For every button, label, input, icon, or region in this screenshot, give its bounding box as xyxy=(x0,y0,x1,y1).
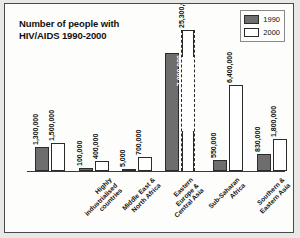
bar-solid-top-segment xyxy=(182,31,194,57)
bar-2000-highly-industrialised xyxy=(51,143,65,171)
plot-area: 1,300,000 1,500,000 100,000 400,000 5,00… xyxy=(17,22,285,172)
bar-2000-latin-america-caribbean xyxy=(273,139,287,171)
bar-value-1990-latin-america-caribbean: 830,000 xyxy=(254,127,261,152)
chart-frame: Number of people with HIV/AIDS 1990-2000… xyxy=(4,3,294,233)
category-label-highly-industrialised: Highly industrialised countries xyxy=(78,176,124,222)
bar-group-middle-east-north-africa: 100,000 400,000 xyxy=(79,161,109,171)
bar-2000-middle-east-north-africa xyxy=(95,161,109,171)
bar-group-highly-industrialised: 1,300,000 1,500,000 xyxy=(35,143,65,171)
bar-wrap-1990: 100,000 xyxy=(79,168,93,171)
bar-wrap-2000: 6,400,000 xyxy=(229,85,243,171)
bar-value-2000-latin-america-caribbean: 1,800,000 xyxy=(270,106,277,137)
bar-value-2000-sub-saharan-africa: 25,300,000 xyxy=(178,3,185,28)
bar-1990-eastern-europe-central-asia xyxy=(122,169,136,171)
bar-2000-eastern-europe-central-asia xyxy=(138,157,152,171)
bar-1990-highly-industrialised xyxy=(35,147,49,171)
category-label-eastern-europe-central-asia: Eastern Europe & Central Asia xyxy=(162,176,205,219)
bar-value-1990-middle-east-north-africa: 100,000 xyxy=(76,141,83,166)
bar-value-2000-eastern-europe-central-asia: 700,000 xyxy=(135,130,142,155)
bar-wrap-2000: 400,000 xyxy=(95,161,109,171)
bar-value-2000-middle-east-north-africa: 400,000 xyxy=(92,134,99,159)
bar-wrap-1990: 1,300,000 xyxy=(35,147,49,171)
category-label-middle-east-north-africa: Middle East & North Africa xyxy=(121,176,162,217)
bar-wrap-1990: 830,000 xyxy=(257,154,271,171)
bar-wrap-2000: 1,500,000 xyxy=(51,143,65,171)
bar-2000-southern-eastern-asia xyxy=(229,85,243,171)
bar-value-2000-southern-eastern-asia: 6,400,000 xyxy=(226,52,233,83)
category-label-southern-eastern-asia: Southern & Eastern Asia xyxy=(253,176,292,215)
bar-2000-sub-saharan-africa xyxy=(181,30,195,171)
bar-wrap-1990: 5,000 xyxy=(122,169,136,171)
bar-group-latin-america-caribbean: 830,000 1,800,000 xyxy=(257,139,287,171)
bar-group-southern-eastern-asia: 550,000 6,400,000 xyxy=(213,85,243,171)
bar-wrap-2000: 25,300,000 xyxy=(181,30,195,171)
bar-wrap-2000: 1,800,000 xyxy=(273,139,287,171)
bar-group-eastern-europe-central-asia: 5,000 700,000 xyxy=(122,157,152,171)
bar-wrap-1990: 7,000,000 xyxy=(165,53,179,171)
bar-1990-southern-eastern-asia xyxy=(213,160,227,171)
bar-group-sub-saharan-africa: 7,000,000 25,300,000 xyxy=(165,30,195,171)
bar-value-1990-highly-industrialised: 1,300,000 xyxy=(32,114,39,145)
bar-1990-middle-east-north-africa xyxy=(79,168,93,171)
bar-value-1990-eastern-europe-central-asia: 5,000 xyxy=(119,149,126,167)
bar-value-2000-highly-industrialised: 1,500,000 xyxy=(48,110,55,141)
bar-wrap-1990: 550,000 xyxy=(213,160,227,171)
bar-wrap-2000: 700,000 xyxy=(138,157,152,171)
category-label-sub-saharan-africa: Sub-Saharan Africa xyxy=(207,176,246,215)
bar-solid-bottom-segment xyxy=(182,131,194,171)
bar-1990-latin-america-caribbean xyxy=(257,154,271,171)
axis-baseline xyxy=(27,171,285,172)
bar-value-1990-southern-eastern-asia: 550,000 xyxy=(210,133,217,158)
